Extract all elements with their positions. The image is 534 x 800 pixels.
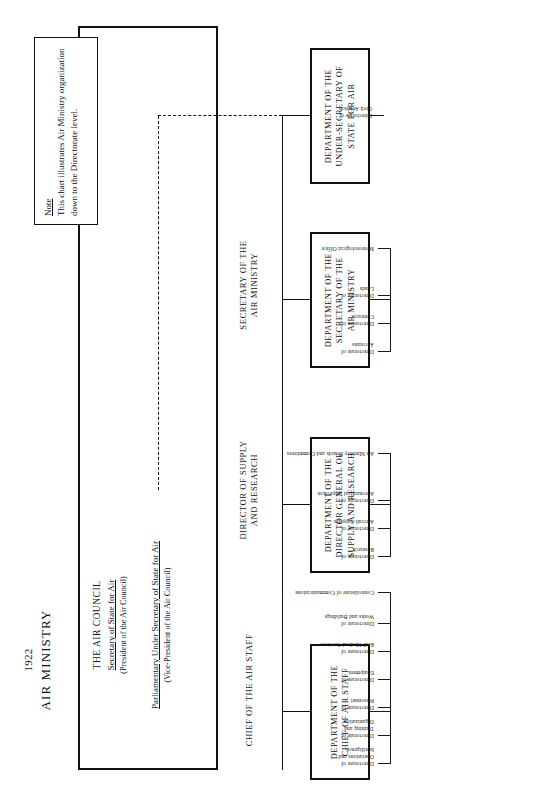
dept-2-tick-2 — [378, 295, 390, 296]
directorate-label: Directorate of Equipment — [278, 669, 374, 683]
role-label-director-supply-research: DIRECTOR OF SUPPLY AND RESEARCH — [238, 405, 260, 575]
org-chart-canvas: 1922 AIR MINISTRY THE AIR COUNCIL Secret… — [0, 0, 534, 800]
dept-0-tick-0 — [378, 763, 390, 764]
dept-1-tick-2 — [378, 500, 390, 501]
directorate-label: Directorate of RAF Medical Services — [278, 641, 374, 655]
note-box: Note This chart illustrates Air Ministry… — [34, 37, 98, 225]
dept-1-rail — [390, 453, 391, 557]
dept-1-tick-3 — [378, 453, 390, 454]
chart-title: AIR MINISTRY — [38, 550, 53, 770]
role-label-chief-of-air-staff: CHIEF OF THE AIR STAFF — [244, 600, 255, 780]
dept-2-tick-0 — [378, 351, 390, 352]
directorate-label: Directorate of Operations and Intelligen… — [278, 746, 374, 767]
dept-0-tick-5 — [378, 623, 390, 624]
dept-2-tick-3 — [378, 248, 390, 249]
dept-0-tick-1 — [378, 735, 390, 736]
dept-2-stem — [370, 299, 390, 300]
directorate-label: Directorate of Civil Aviation — [276, 105, 372, 119]
council-member-0-role: Secretary of State for Air — [106, 510, 117, 740]
note-body: This chart illustrates Air Ministry orga… — [55, 46, 81, 216]
directorate-label: Directorate of Contracts — [278, 313, 374, 327]
dept-3-tick-0 — [370, 115, 384, 116]
dashed-connector-horizontal — [158, 116, 159, 490]
directorate-label: Directorate of Lands — [278, 285, 374, 299]
dept-1-tick-0 — [378, 556, 390, 557]
directorate-label: Directorate of Personnel — [278, 697, 374, 711]
dashed-connector-vertical — [158, 115, 282, 116]
note-title: Note — [42, 46, 55, 216]
dept-0-tick-3 — [378, 679, 390, 680]
council-member-1-position: (Vice-President of the Air Council) — [163, 490, 173, 760]
dept-0-rail — [390, 592, 391, 764]
directorate-label: Meteorological Office — [274, 245, 374, 252]
directorate-label: Directorate of Accounts — [278, 341, 374, 355]
air-council-name: THE AIR COUNCIL — [92, 510, 103, 740]
council-member-0-position: (President of the Air Council) — [119, 510, 129, 740]
dept-0-tick-2 — [378, 707, 390, 708]
directorate-label: Air Ministry Boards and Committees — [256, 450, 374, 457]
dept-2-rail — [390, 248, 391, 352]
directorate-label: Directorate of Aeronautical Inspection — [278, 490, 374, 504]
directorate-label: Controllerate of Communications — [264, 589, 374, 596]
dept-1-stem — [370, 504, 390, 505]
council-member-1-role: Parliamentary Under Secretary of State f… — [150, 490, 161, 760]
dept-1-tick-1 — [378, 528, 390, 529]
role-label-secretary-air-ministry: SECRETARY OF THE AIR MINISTRY — [238, 200, 260, 370]
directorate-label: Directorate of Aircraft Supplies — [278, 518, 374, 532]
chart-year: 1922 — [22, 570, 35, 750]
dept-0-stem — [370, 711, 390, 712]
dept-0-tick-6 — [378, 592, 390, 593]
dept-0-tick-4 — [378, 651, 390, 652]
directorate-label: Directorate of Works and Buildings — [278, 613, 374, 627]
directorate-label: Directorate of Training and Organization — [278, 718, 374, 739]
directorate-label: Directorate of Research — [278, 546, 374, 560]
dept-2-tick-1 — [378, 323, 390, 324]
